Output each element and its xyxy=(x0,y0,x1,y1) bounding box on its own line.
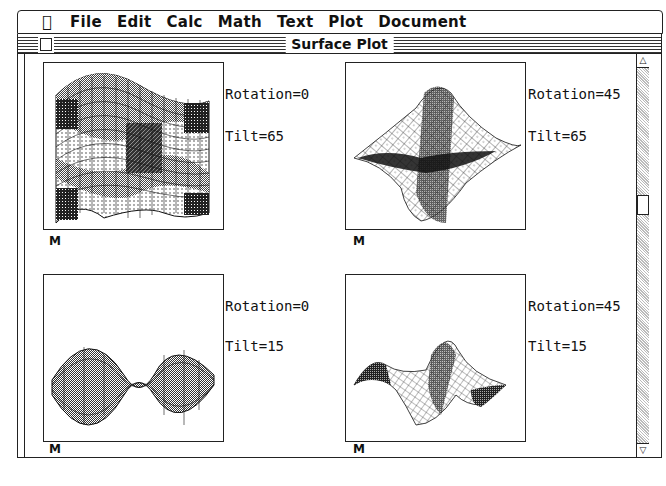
menu-document[interactable]: Document xyxy=(378,13,466,31)
tilt-label-1: Tilt=65 xyxy=(225,128,284,144)
close-box-icon[interactable] xyxy=(40,38,52,51)
surface-plot-2[interactable] xyxy=(345,62,526,230)
plot-marker-1: M xyxy=(49,234,61,248)
tilt-label-3: Tilt=15 xyxy=(225,338,284,354)
tilt-label-4: Tilt=15 xyxy=(528,338,587,354)
surface-mesh-icon xyxy=(44,275,223,441)
surface-plot-4[interactable] xyxy=(345,274,526,442)
menu-math[interactable]: Math xyxy=(218,13,262,31)
surface-mesh-icon xyxy=(346,275,525,441)
scroll-down-arrow-icon[interactable]: ▽ xyxy=(637,443,649,457)
plot-marker-4: M xyxy=(353,442,365,456)
surface-plot-1[interactable] xyxy=(43,62,224,230)
menu-file[interactable]: File xyxy=(70,13,102,31)
tilt-label-2: Tilt=65 xyxy=(528,128,587,144)
menu-calc[interactable]: Calc xyxy=(166,13,202,31)
menu-plot[interactable]: Plot xyxy=(328,13,363,31)
surface-mesh-icon xyxy=(44,63,223,229)
surface-mesh-icon xyxy=(346,63,525,229)
scroll-thumb[interactable] xyxy=(637,195,649,215)
plot-marker-3: M xyxy=(49,442,61,456)
menu-items: File Edit Calc Math Text Plot Document xyxy=(70,13,467,31)
menu-bar:  File Edit Calc Math Text Plot Document xyxy=(17,10,663,34)
menu-text[interactable]: Text xyxy=(277,13,313,31)
window-title: Surface Plot xyxy=(285,35,394,53)
apple-menu-icon[interactable]:  xyxy=(42,12,52,31)
surface-plot-3[interactable] xyxy=(43,274,224,442)
plot-area: Rotation=0 Tilt=65 M Rotation=45 Tilt=65… xyxy=(24,54,649,457)
menu-edit[interactable]: Edit xyxy=(117,13,152,31)
rotation-label-1: Rotation=0 xyxy=(225,86,309,102)
rotation-label-2: Rotation=45 xyxy=(528,86,621,102)
vertical-scrollbar[interactable]: △ ▽ xyxy=(636,54,649,457)
rotation-label-3: Rotation=0 xyxy=(225,298,309,314)
scroll-up-arrow-icon[interactable]: △ xyxy=(637,54,649,68)
plot-marker-2: M xyxy=(353,234,365,248)
surface-plot-window: Surface Plot xyxy=(17,34,662,458)
rotation-label-4: Rotation=45 xyxy=(528,298,621,314)
title-bar[interactable]: Surface Plot xyxy=(18,35,661,54)
